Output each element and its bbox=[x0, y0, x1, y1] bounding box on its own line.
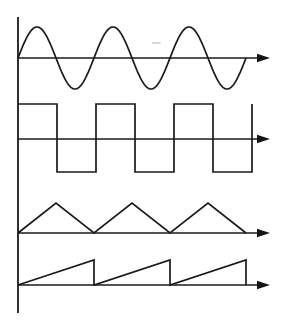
triangle-wave-row bbox=[18, 203, 270, 237]
sawtooth-wave-path bbox=[18, 260, 246, 285]
triangle-axis-arrow-icon bbox=[257, 229, 270, 237]
sawtooth-wave-row bbox=[18, 260, 270, 289]
square-axis-arrow-icon bbox=[257, 135, 270, 143]
sine-wave-row bbox=[18, 27, 270, 89]
sawtooth-axis-arrow-icon bbox=[257, 281, 270, 289]
waveform-canvas bbox=[0, 0, 284, 329]
sine-axis-arrow-icon bbox=[257, 54, 270, 62]
waveform-figure bbox=[0, 0, 284, 329]
square-wave-row bbox=[18, 104, 270, 172]
square-wave-path bbox=[18, 104, 252, 172]
triangle-wave-path bbox=[18, 203, 246, 233]
scan-artifact-mark bbox=[152, 42, 161, 44]
